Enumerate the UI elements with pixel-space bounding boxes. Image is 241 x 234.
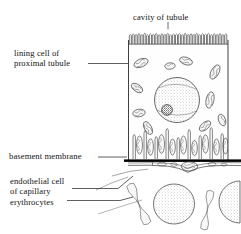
label-endothelial-line-2: of capillary	[10, 186, 51, 196]
label-cavity-of-tubule: cavity of tubule	[133, 12, 189, 22]
label-endothelial-cell-of-capillary: endothelial cell of capillary	[10, 176, 64, 197]
endothelial-nucleus	[181, 162, 197, 171]
basement-membrane	[124, 159, 241, 162]
kidney-proximal-tubule-diagram: cavity of tubule lining cell of proximal…	[0, 0, 241, 234]
erythrocytes	[126, 181, 240, 231]
leader-erythrocytes-2	[120, 197, 133, 201]
label-lining-line-1: lining cell of	[14, 48, 59, 58]
nucleolus	[162, 105, 173, 116]
label-lining-cell-of-proximal-tubule: lining cell of proximal tubule	[14, 48, 70, 69]
label-erythrocytes: erythrocytes	[10, 197, 54, 207]
microvilli-brush-border	[129, 33, 227, 44]
nucleus	[155, 78, 200, 123]
label-endothelial-line-1: endothelial cell	[10, 176, 64, 186]
label-basement-membrane: basement membrane	[9, 151, 82, 161]
label-lining-line-2: proximal tubule	[14, 58, 70, 68]
